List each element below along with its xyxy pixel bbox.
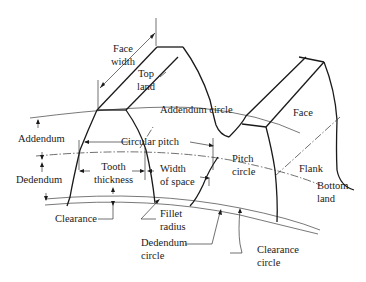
back-tooth-profile — [183, 47, 229, 137]
tooth-left-profile — [67, 110, 97, 206]
fillet-radius-label: Fillet radius — [160, 208, 186, 233]
tooth-right-profile — [126, 110, 155, 203]
width-of-space-label: Width of space — [160, 163, 195, 188]
face-width-label: Face width — [111, 43, 135, 68]
clearance-label: Clearance — [55, 213, 97, 226]
right-tooth-front-profile — [266, 127, 277, 222]
tooth-thickness-label: Tooth thickness — [94, 161, 133, 186]
clearance-circle-label: Clearance circle — [257, 244, 299, 269]
bottom-land-label: Bottom land — [317, 180, 349, 205]
addendum-label: Addendum — [18, 133, 65, 146]
right-tooth-front-top — [242, 124, 266, 127]
gear-nomenclature-diagram: Face width Top land Addendum circle Face… — [0, 0, 366, 282]
right-tooth-back-profile — [324, 62, 354, 190]
pitch-circle-label: Pitch circle — [232, 153, 255, 178]
flank-label: Flank — [299, 163, 323, 176]
dedendum-circle-label: Dedendum circle — [141, 237, 187, 262]
face-label: Face — [293, 107, 313, 120]
circular-pitch-label: Circular pitch — [121, 136, 179, 149]
dedendum-label: Dedendum — [16, 174, 62, 187]
addendum-circle-label: Addendum circle — [160, 104, 233, 117]
top-land-label: Top land — [137, 68, 155, 93]
